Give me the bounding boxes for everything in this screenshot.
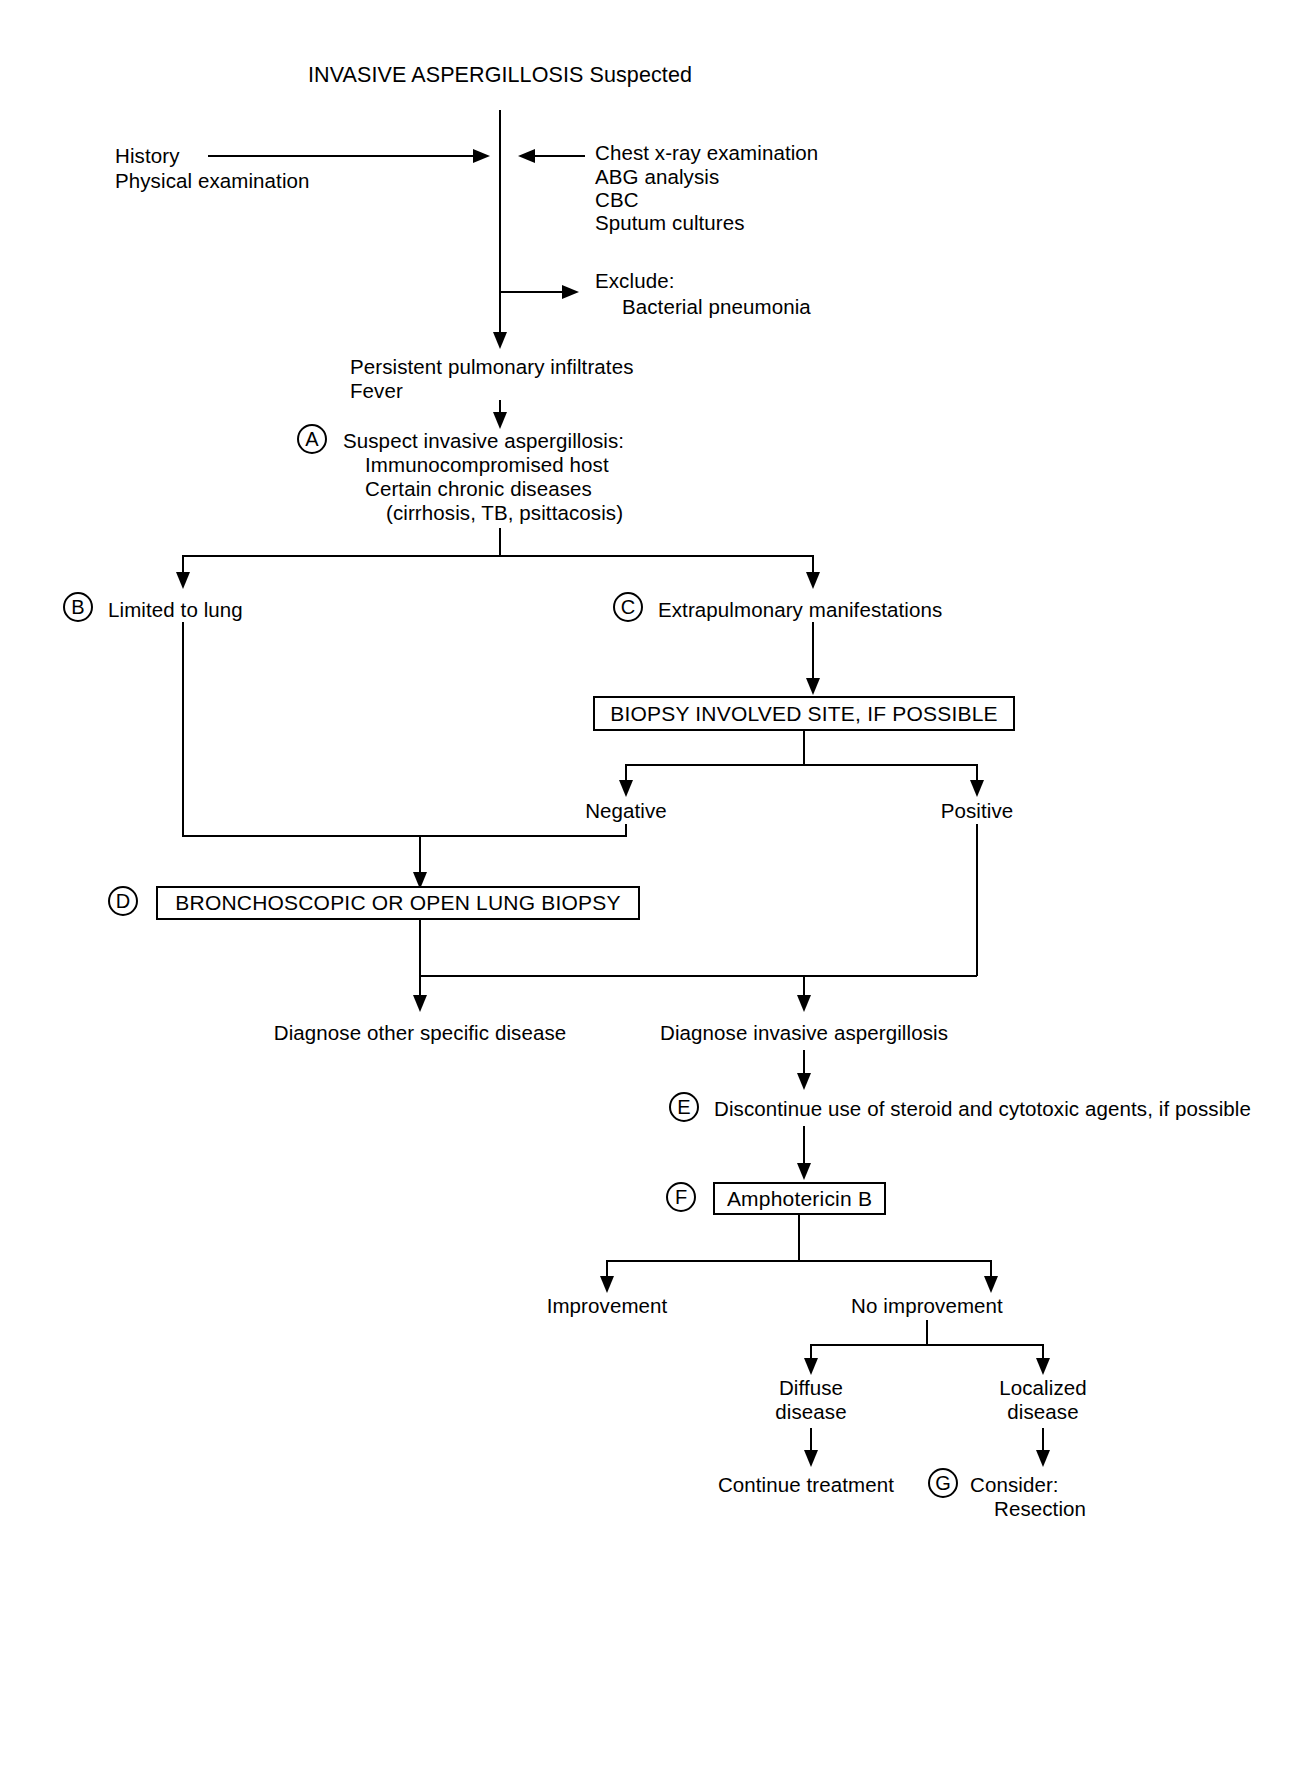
exclude-arrowhead [562, 285, 579, 299]
step-marker-a: A [297, 424, 327, 454]
no-improvement-stem-down [926, 1320, 928, 1345]
diagnose-ia-label: Diagnose invasive aspergillosis [660, 1020, 948, 1047]
history-arrowhead [473, 149, 490, 163]
no-improvement-label: No improvement [851, 1293, 1003, 1320]
workup-arrowhead [518, 149, 535, 163]
history-label: History [115, 143, 179, 170]
localized-disease-line2: disease [1007, 1399, 1078, 1426]
diffuse-arrowhead [804, 1358, 818, 1375]
diffuse-disease-line1: Diffuse [779, 1375, 843, 1402]
continue-treatment-label: Continue treatment [718, 1472, 894, 1499]
step-marker-e: E [669, 1092, 699, 1122]
c-to-biopsy-arrowhead [806, 678, 820, 695]
step-marker-f: F [666, 1182, 696, 1212]
history-connector-line [208, 155, 473, 157]
amphotericin-b-box[interactable]: Amphotericin B [713, 1182, 886, 1215]
localized-to-g-arrowhead [1036, 1450, 1050, 1467]
c-to-biopsy-line [812, 622, 814, 684]
b-path-down [182, 622, 184, 836]
biopsy-box-label: BIOPSY INVOLVED SITE, IF POSSIBLE [610, 702, 997, 726]
d-results-split-bar [419, 975, 977, 977]
step-c-label: Extrapulmonary manifestations [658, 597, 942, 624]
diagnose-ia-arrowhead [797, 995, 811, 1012]
disease-type-split-bar [810, 1344, 1044, 1346]
amphotericin-b-label: Amphotericin B [727, 1187, 872, 1211]
diffuse-disease-line2: disease [775, 1399, 846, 1426]
step-marker-g-letter: G [935, 1472, 951, 1495]
physical-exam-label: Physical examination [115, 168, 310, 195]
step-marker-c: C [613, 592, 643, 622]
step-b-label: Limited to lung [108, 597, 243, 624]
step-marker-a-letter: A [305, 428, 318, 451]
step-g-consider-label: Consider: [970, 1472, 1059, 1499]
findings-fever: Fever [350, 378, 403, 405]
biopsy-involved-site-box[interactable]: BIOPSY INVOLVED SITE, IF POSSIBLE [593, 696, 1015, 731]
improvement-split-bar [606, 1260, 992, 1262]
step-a-chronic-diseases: Certain chronic diseases [365, 476, 592, 503]
positive-label: Positive [941, 798, 1014, 825]
step-a-title: Suspect invasive aspergillosis: [343, 428, 624, 455]
improvement-arrowhead [600, 1276, 614, 1293]
negative-label: Negative [585, 798, 667, 825]
step-marker-f-letter: F [675, 1186, 687, 1209]
diagnose-other-label: Diagnose other specific disease [274, 1020, 567, 1047]
d-stem-down [419, 920, 421, 976]
localized-arrowhead [1036, 1358, 1050, 1375]
workup-sputum: Sputum cultures [595, 210, 745, 237]
step-marker-d: D [108, 886, 138, 916]
workup-connector-line [535, 155, 585, 157]
step-marker-c-letter: C [621, 596, 635, 619]
step-a-immunocompromised: Immunocompromised host [365, 452, 609, 479]
step-marker-b-letter: B [71, 596, 84, 619]
biopsy-stem-down [803, 731, 805, 765]
a-stem-down [499, 528, 501, 556]
step-e-label: Discontinue use of steroid and cytotoxic… [714, 1096, 1251, 1123]
localized-disease-line1: Localized [999, 1375, 1087, 1402]
exclude-connector-line [500, 291, 562, 293]
f-stem-down [798, 1215, 800, 1261]
step-a-examples: (cirrhosis, TB, psittacosis) [386, 500, 623, 527]
step-marker-g: G [928, 1468, 958, 1498]
findings-to-a-arrowhead [493, 412, 507, 429]
exclude-bacterial-pneumonia: Bacterial pneumonia [622, 294, 811, 321]
spine-top-arrowhead [493, 332, 507, 349]
ia-to-e-arrowhead [797, 1073, 811, 1090]
b-arrowhead [176, 572, 190, 589]
bronchoscopic-box-label: BRONCHOSCOPIC OR OPEN LUNG BIOPSY [175, 891, 620, 915]
no-improvement-arrowhead [984, 1276, 998, 1293]
diagnose-other-arrowhead [413, 995, 427, 1012]
negative-arrowhead [619, 780, 633, 797]
step-g-resection-label: Resection [994, 1496, 1086, 1523]
flowchart-canvas: INVASIVE ASPERGILLOSIS Suspected History… [0, 0, 1292, 1783]
bc-split-bar [182, 555, 814, 557]
c-arrowhead [806, 572, 820, 589]
b-path-to-d-junction [182, 835, 419, 837]
step-marker-b: B [63, 592, 93, 622]
d-entry-line [419, 835, 421, 877]
improvement-label: Improvement [547, 1293, 668, 1320]
diffuse-to-continue-arrowhead [804, 1450, 818, 1467]
positive-path-down [976, 824, 978, 976]
bronchoscopic-biopsy-box[interactable]: BRONCHOSCOPIC OR OPEN LUNG BIOPSY [156, 886, 640, 920]
step-marker-d-letter: D [116, 890, 130, 913]
findings-infiltrates: Persistent pulmonary infiltrates [350, 354, 633, 381]
positive-arrowhead [970, 780, 984, 797]
spine-top [499, 110, 501, 340]
exclude-label: Exclude: [595, 268, 674, 295]
e-to-f-arrowhead [797, 1163, 811, 1180]
biopsy-split-bar [625, 764, 978, 766]
step-marker-e-letter: E [677, 1096, 690, 1119]
negative-path-to-d-junction [419, 835, 627, 837]
diagram-title: INVASIVE ASPERGILLOSIS Suspected [308, 62, 692, 90]
workup-chest-xray: Chest x-ray examination [595, 140, 818, 167]
